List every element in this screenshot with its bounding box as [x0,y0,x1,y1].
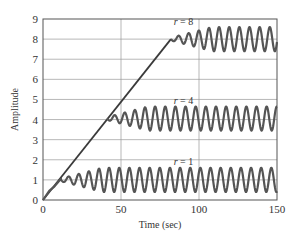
x-tick-label: 100 [191,203,208,215]
x-tick-label: 0 [40,203,46,215]
x-tick-label: 50 [116,203,128,215]
curve-label: r = 8 [174,16,194,27]
amplitude-vs-time-chart: 0123456789 050100150 r = 1r = 4r = 8 Tim… [0,0,295,239]
response-curves [43,27,277,200]
y-tick-label: 9 [33,13,39,25]
y-tick-label: 4 [33,114,39,126]
y-tick-label: 2 [33,154,39,166]
y-tick-label: 3 [33,134,39,146]
x-tick-label: 150 [269,203,286,215]
x-axis-ticks: 050100150 [40,203,286,215]
response-curve-r1 [43,168,277,200]
y-tick-label: 0 [33,194,39,206]
y-tick-label: 5 [33,93,39,105]
y-axis-label: Amplitude [9,88,20,131]
curve-label: r = 1 [174,156,194,167]
y-tick-label: 8 [33,33,39,45]
x-axis-label: Time (sec) [139,219,182,231]
y-tick-label: 7 [33,53,39,65]
curve-label: r = 4 [174,95,194,106]
y-axis-ticks: 0123456789 [33,13,39,206]
response-curve-r4 [107,107,277,131]
y-tick-label: 1 [33,174,39,186]
y-tick-label: 6 [33,73,39,85]
